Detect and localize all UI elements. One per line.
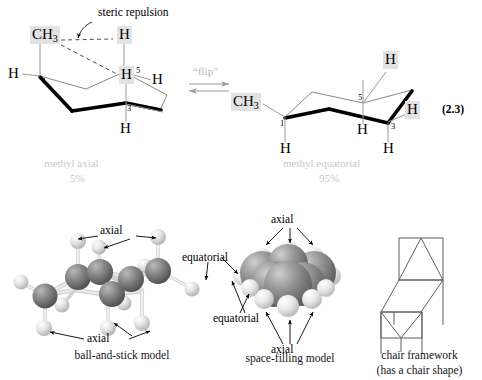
equation-number: (2.3) bbox=[442, 104, 464, 116]
ball-stick-axial-bottom-label: axial bbox=[87, 333, 109, 345]
right-caption-line1: methyl equatorial bbox=[283, 158, 360, 169]
left-h-left-label: H bbox=[8, 66, 19, 81]
left-h-right-label: H bbox=[152, 72, 163, 87]
chair-framework-model bbox=[381, 238, 443, 354]
equilibrium-arrows bbox=[189, 84, 229, 91]
steric-repulsion-pointer bbox=[78, 22, 92, 38]
left-methyl-label: CH3 bbox=[30, 26, 60, 44]
right-carbon-5-number: 5 bbox=[358, 93, 362, 102]
steric-repulsion-label: steric repulsion bbox=[98, 7, 169, 19]
left-methyl-text: CH bbox=[32, 26, 53, 42]
right-h-right-label: H bbox=[405, 101, 420, 119]
ball-and-stick-model bbox=[14, 229, 200, 336]
right-methyl-text: CH bbox=[233, 93, 254, 109]
right-carbon-3-number: 3 bbox=[391, 122, 395, 131]
left-chair-skeleton bbox=[40, 72, 167, 111]
right-h-mid-bottom-label: H bbox=[357, 122, 368, 137]
carbon-atoms bbox=[33, 258, 172, 309]
space-filling-caption: space-filling model bbox=[230, 353, 350, 365]
right-chair-skeleton bbox=[285, 90, 412, 123]
left-h-top-right-label: H bbox=[117, 26, 132, 44]
space-filling-axial-top-label: axial bbox=[271, 214, 293, 226]
ball-stick-caption: ball-and-stick model bbox=[42, 350, 202, 362]
right-caption-line2: 95% bbox=[319, 173, 339, 184]
ball-stick-axial-top-label: axial bbox=[100, 225, 122, 237]
left-carbon-1-number: 1 bbox=[42, 77, 46, 86]
right-h-top-label: H bbox=[383, 51, 398, 69]
chair-conformer-figure: steric repulsion CH3 H H H H H 1 3 5 met… bbox=[0, 0, 482, 380]
left-h-bottom-label: H bbox=[120, 121, 131, 136]
right-chair-substituent-bonds bbox=[263, 72, 409, 142]
left-h-middle-label: H bbox=[119, 66, 134, 84]
right-carbon-1-number: 1 bbox=[280, 119, 284, 128]
left-caption-line2: 5% bbox=[70, 173, 85, 184]
chair-framework-caption-line1: chair framework bbox=[357, 350, 482, 362]
flip-label: “flip” bbox=[193, 66, 218, 77]
steric-repulsion-dashes bbox=[61, 39, 117, 74]
right-methyl-label: CH3 bbox=[231, 93, 261, 111]
right-h-left-bottom-label: H bbox=[280, 141, 291, 156]
chair-framework-caption-line2: (has a chair shape) bbox=[357, 365, 482, 377]
right-h-bottom-label: H bbox=[383, 141, 394, 156]
left-carbon-3-number: 3 bbox=[127, 104, 131, 113]
left-carbon-5-number: 5 bbox=[136, 66, 140, 75]
right-methyl-subscript: 3 bbox=[254, 100, 259, 111]
space-filling-equatorial-label: equatorial bbox=[213, 313, 259, 325]
space-filling-model bbox=[233, 241, 341, 317]
left-methyl-subscript: 3 bbox=[53, 33, 58, 44]
ball-stick-equatorial-label: equatorial bbox=[182, 252, 228, 264]
left-caption-line1: methyl axial bbox=[44, 158, 99, 169]
